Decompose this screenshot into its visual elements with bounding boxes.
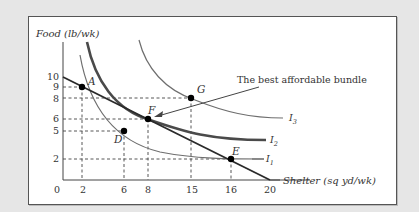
- i1-label: I1: [265, 153, 274, 167]
- indifference-curve-i1: [80, 55, 264, 159]
- point-d-label: D: [113, 133, 123, 145]
- point-g-label: G: [197, 83, 205, 95]
- x-tick-labels: 0 2 6 8 15 16 20: [54, 184, 276, 195]
- svg-text:8: 8: [145, 184, 151, 195]
- consumer-choice-diagram: A D F G E I3 I2 I1 The best affordable b…: [0, 0, 419, 212]
- point-a-label: A: [87, 75, 96, 87]
- point-e-label: E: [231, 145, 240, 157]
- svg-text:8: 8: [53, 93, 59, 104]
- point-f: [145, 116, 151, 122]
- point-a: [79, 84, 85, 90]
- i3-label: I3: [288, 112, 297, 126]
- svg-text:5: 5: [53, 125, 59, 136]
- guide-lines: [63, 87, 231, 180]
- annotation-arrow: [154, 87, 259, 117]
- svg-text:16: 16: [225, 184, 237, 195]
- x-axis-title: Shelter (sq yd/wk): [283, 175, 376, 186]
- svg-text:2: 2: [53, 153, 59, 164]
- annotation-text: The best affordable bundle: [237, 74, 367, 85]
- point-g: [188, 95, 194, 101]
- svg-text:0: 0: [54, 184, 60, 195]
- svg-text:6: 6: [53, 113, 59, 124]
- i2-label: I2: [269, 134, 278, 148]
- svg-text:2: 2: [80, 184, 86, 195]
- y-tick-labels: 10 9 8 6 5 2: [47, 71, 59, 164]
- svg-text:9: 9: [53, 81, 59, 92]
- svg-text:20: 20: [264, 184, 276, 195]
- point-f-label: F: [147, 104, 156, 116]
- y-axis-title: Food (lb/wk): [35, 28, 100, 39]
- svg-text:6: 6: [121, 184, 127, 195]
- svg-text:15: 15: [186, 184, 198, 195]
